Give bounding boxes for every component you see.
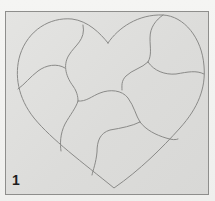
- piece-line: [148, 15, 163, 62]
- heart-outline: [17, 15, 204, 188]
- piece-line: [78, 91, 140, 122]
- piece-line: [122, 62, 148, 90]
- paper-background: 1: [0, 0, 215, 201]
- heart-drawing: [0, 0, 215, 201]
- piece-line: [66, 25, 84, 101]
- piece-line: [60, 101, 78, 151]
- step-number-label: 1: [12, 173, 20, 187]
- piece-line: [92, 122, 140, 175]
- piece-line: [18, 65, 65, 89]
- piece-line: [148, 62, 204, 74]
